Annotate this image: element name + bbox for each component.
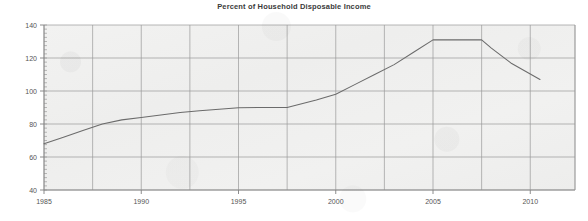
y-axis-tick-labels: 406080100120140 [25, 22, 37, 194]
y-tick-label: 80 [29, 121, 37, 128]
y-axis-major-ticks [40, 25, 44, 190]
chart-plot-svg: 406080100120140 198519901995200020052010 [0, 0, 588, 221]
x-tick-label: 1990 [133, 198, 149, 205]
y-tick-label: 120 [25, 55, 37, 62]
y-tick-label: 140 [25, 22, 37, 29]
y-tick-label: 60 [29, 154, 37, 161]
x-tick-label: 2005 [425, 198, 441, 205]
x-tick-label: 2000 [328, 198, 344, 205]
x-axis-major-ticks [44, 190, 530, 194]
x-tick-label: 1985 [36, 198, 52, 205]
plot-area-background [44, 25, 575, 190]
y-tick-label: 100 [25, 88, 37, 95]
x-tick-label: 2010 [522, 198, 538, 205]
y-tick-label: 40 [29, 187, 37, 194]
x-axis-tick-labels: 198519901995200020052010 [36, 198, 538, 205]
x-tick-label: 1995 [231, 198, 247, 205]
line-chart: Percent of Household Disposable Income 4… [0, 0, 588, 221]
